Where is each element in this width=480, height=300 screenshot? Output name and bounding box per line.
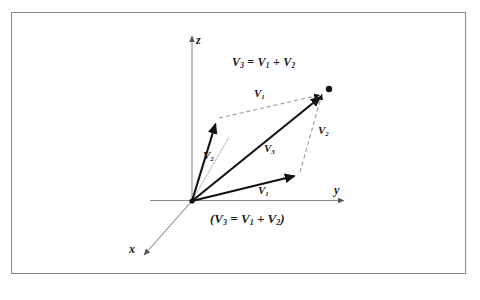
v1-solid-sub: 1 — [265, 190, 268, 197]
v3-solid-sub: 3 — [271, 148, 274, 155]
x-axis-label: x — [129, 243, 135, 255]
y-axis-label: y — [334, 184, 339, 196]
title-eq-v2-sub: 2 — [291, 61, 295, 70]
vector-label-v2-dashed: V2 — [318, 125, 329, 138]
guide-line — [192, 137, 229, 201]
caption-close-paren: ) — [280, 211, 284, 226]
caption-v1: V — [241, 211, 250, 226]
vector-label-v2-solid: V2 — [203, 150, 214, 163]
dashed-construction-lines — [219, 94, 322, 172]
v2-dashed-sub: 2 — [325, 130, 328, 137]
z-axis-label: z — [196, 34, 201, 46]
title-eq-v1: V — [258, 55, 266, 69]
title-eq-equals: = — [244, 55, 257, 69]
vector-label-v3-solid: V3 — [264, 143, 275, 156]
caption-v3: V — [214, 211, 223, 226]
caption-equals: = — [227, 211, 241, 226]
origin-dot — [189, 198, 194, 203]
title-eq-v3: V — [232, 55, 240, 69]
caption-plus: + — [254, 211, 268, 226]
title-eq-plus: + — [270, 55, 283, 69]
caption-equation: (V3 = V1 + V2) — [210, 212, 285, 227]
resultant-endpoint-dot — [326, 86, 332, 92]
vector-diagram-canvas — [0, 0, 480, 300]
v2-solid-sub: 2 — [210, 155, 213, 162]
figure-page: z y x V3 = V1 + V2 (V3 = V1 + V2) V2 V3 … — [0, 0, 480, 300]
dashed-v1-line — [219, 95, 320, 118]
v1-dashed-sub: 1 — [261, 93, 264, 100]
vector-label-v1-dashed: V1 — [254, 88, 265, 101]
vector-label-v1-solid: V1 — [258, 185, 269, 198]
title-equation: V3 = V1 + V2 — [232, 56, 295, 69]
x-axis-line — [144, 201, 192, 255]
vector-group — [192, 97, 321, 201]
caption-v2: V — [268, 211, 277, 226]
